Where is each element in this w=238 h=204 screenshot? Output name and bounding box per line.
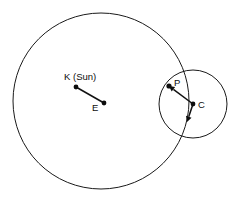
label-sun: K (Sun)	[64, 71, 96, 82]
point-sun-dot	[74, 85, 79, 90]
segment-sun-earth	[76, 87, 104, 103]
diagram-canvas: K (Sun) E P C	[0, 0, 238, 204]
epicycle-diagram: K (Sun) E P C	[0, 0, 238, 204]
label-centre: C	[198, 99, 205, 110]
point-planet-dot	[166, 83, 171, 88]
segment-centre-planet	[173, 89, 193, 104]
label-planet: P	[174, 77, 180, 88]
point-earth-dot	[102, 101, 107, 106]
label-earth: E	[92, 102, 98, 113]
point-centre-dot	[191, 102, 196, 107]
